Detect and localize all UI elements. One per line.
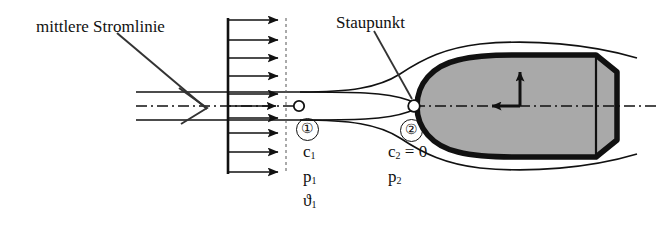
- staupunkt-label: Staupunkt: [336, 14, 405, 31]
- station-1-pressure-symbol: p: [303, 167, 312, 186]
- station-2-badge: ②: [400, 119, 423, 142]
- station-2-velocity: c2 = 0: [388, 143, 427, 161]
- station-2-pressure: p2: [388, 168, 402, 186]
- station-markers: [294, 100, 420, 112]
- streamline-dividing-upper: [300, 92, 424, 106]
- station-2-velocity-symbol: c: [388, 142, 396, 161]
- streamline-dividing-lower: [300, 106, 424, 120]
- station-1-velocity-symbol: c: [303, 142, 311, 161]
- station-1-point: [294, 101, 304, 111]
- streamline-label: mittlere Stromlinie: [36, 18, 165, 35]
- station-2-pressure-symbol: p: [388, 167, 397, 186]
- station-2-velocity-value: = 0: [401, 142, 428, 161]
- station-1-velocity: c1: [303, 143, 316, 161]
- station-1-badge: ①: [296, 118, 319, 141]
- station-1-pressure: p1: [303, 168, 317, 186]
- station-1-velocity-sub: 1: [311, 150, 316, 161]
- station-1-pressure-sub: 1: [312, 175, 317, 186]
- flow-diagram-svg: [0, 0, 665, 249]
- velocity-profile-rake: [228, 18, 286, 174]
- streamline-leader: [117, 33, 207, 124]
- station-2-pressure-sub: 2: [397, 175, 402, 186]
- staupunkt-leader: [374, 31, 412, 99]
- figure-container: mittlere Stromlinie Staupunkt ① ② c1 p1 …: [0, 0, 665, 249]
- staupunkt-leader-line: [374, 31, 412, 99]
- stagnation-point: [408, 100, 420, 112]
- station-1-temperature: ϑ1: [303, 192, 316, 210]
- station-1-temperature-sub: 1: [311, 199, 316, 210]
